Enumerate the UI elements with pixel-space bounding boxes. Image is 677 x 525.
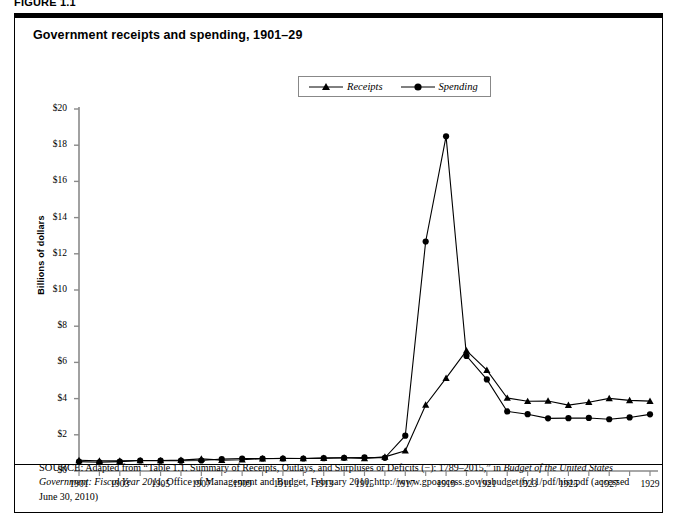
series-line-spending	[79, 136, 650, 462]
data-point-spending	[545, 415, 551, 421]
data-point-receipts	[606, 395, 613, 401]
data-point-spending	[627, 414, 633, 420]
data-point-spending	[402, 433, 408, 439]
source-note: SOURCE: Adapted from “Table 1.1. Summary…	[39, 460, 646, 505]
y-axis-tick-label: $18	[37, 139, 67, 149]
y-axis-tick-label: $14	[37, 212, 67, 222]
data-point-spending	[484, 376, 490, 382]
data-point-spending	[525, 411, 531, 417]
y-axis-tick-label: $16	[37, 175, 67, 185]
data-point-spending	[423, 238, 429, 244]
source-text-1: Adapted from “Table 1.1. Summary of Rece…	[83, 462, 503, 473]
data-point-spending	[504, 408, 510, 414]
data-point-spending	[647, 411, 653, 417]
data-point-spending	[443, 133, 449, 139]
y-axis-tick-label: $6	[37, 356, 67, 366]
figure-container: Government receipts and spending, 1901–2…	[14, 13, 663, 513]
data-point-spending	[606, 416, 612, 422]
data-point-spending	[565, 415, 571, 421]
data-point-receipts	[402, 447, 409, 453]
y-axis-tick-label: $10	[37, 284, 67, 294]
data-point-spending	[463, 353, 469, 359]
y-axis-tick-label: $4	[37, 393, 67, 403]
line-chart	[15, 14, 664, 514]
y-axis-tick-label: $2	[37, 429, 67, 439]
data-point-spending	[586, 415, 592, 421]
y-axis-tick-label: $20	[37, 103, 67, 113]
y-axis-tick-label: $12	[37, 248, 67, 258]
figure-label: FIGURE 1.1	[14, 0, 76, 8]
source-prefix: SOURCE:	[39, 462, 83, 473]
y-axis-tick-label: $8	[37, 320, 67, 330]
plot-area: Billions of dollars $0$2$4$6$8$10$12$14$…	[15, 14, 664, 514]
series-line-receipts	[79, 351, 650, 461]
